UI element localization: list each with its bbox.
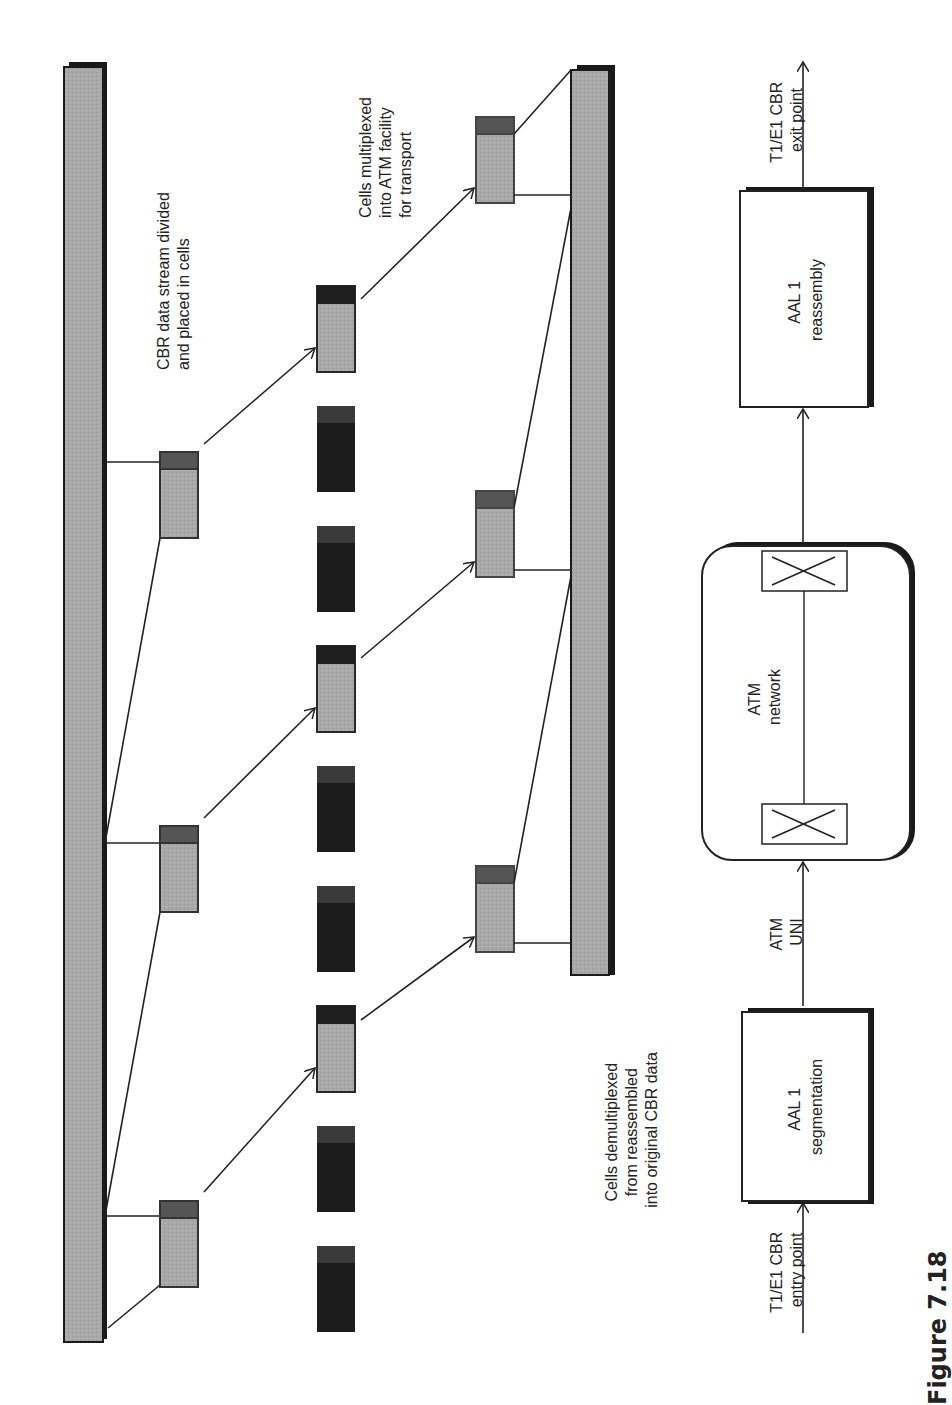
atm-network-cloud: ATM network <box>702 542 915 860</box>
mux-to-reassembly-arrows <box>361 188 474 1020</box>
exit-point-label: T1/E1 CBR exit point <box>768 77 805 162</box>
multiplexed-user-cell <box>317 1006 355 1092</box>
atm-switch-icon <box>762 551 847 591</box>
reassembled-cell <box>476 866 514 952</box>
multiplexed-other-cell <box>317 1246 355 1332</box>
multiplexed-other-cell <box>317 406 355 492</box>
multiplexed-label: Cells multiplexed into ATM facility for … <box>357 93 414 218</box>
reassembly-to-dest-connectors <box>514 70 571 943</box>
aal1-reassembly-box: AAL 1 reassembly <box>740 187 874 407</box>
aal1-segmentation-box: AAL 1 segmentation <box>742 1008 874 1204</box>
destination-cbr-stream-bar <box>571 65 615 975</box>
segment-to-mux-arrows <box>204 348 315 1192</box>
multiplexed-other-cell <box>317 886 355 972</box>
multiplexed-user-cell <box>317 286 355 372</box>
multiplexed-other-cell <box>317 1126 355 1212</box>
reassembled-cell <box>476 491 514 577</box>
entry-point-label: T1/E1 CBR entry point <box>768 1227 805 1312</box>
atm-cbr-transport-diagram: CBR data stream divided and placed in ce… <box>0 0 952 1405</box>
reassembled-cell <box>476 117 514 203</box>
divided-label: CBR data stream divided and placed in ce… <box>155 188 192 370</box>
segmented-cell <box>160 452 198 538</box>
source-cbr-stream-bar <box>64 62 107 1342</box>
multiplexed-cell-stream <box>317 286 355 1332</box>
figure-caption: Figure 7.18 <box>924 1250 952 1405</box>
reassembled-cells <box>476 117 514 952</box>
segmented-cells <box>160 452 198 1287</box>
source-to-cell-connectors <box>105 462 160 1328</box>
multiplexed-other-cell <box>317 766 355 852</box>
multiplexed-other-cell <box>317 526 355 612</box>
multiplexed-user-cell <box>317 646 355 732</box>
atm-switch-icon <box>762 804 847 844</box>
segmented-cell <box>160 826 198 912</box>
atm-uni-label: ATM UNI <box>768 913 805 950</box>
end-to-end-path: T1/E1 CBR entry point AAL 1 segmentation… <box>702 62 915 1333</box>
demultiplexed-label: Cells demultiplexed from reassembled int… <box>603 1052 660 1208</box>
segmented-cell <box>160 1201 198 1287</box>
